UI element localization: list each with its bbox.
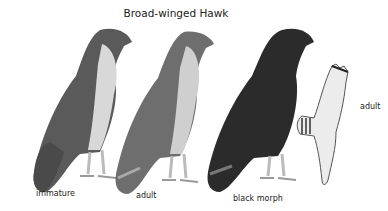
- field-guide-plate: Broad-winged Hawk immature adult black m…: [0, 0, 388, 211]
- plate-title: Broad-winged Hawk: [0, 7, 352, 19]
- label-immature: immature: [36, 189, 75, 198]
- label-adult-flight: adult: [360, 102, 380, 111]
- label-adult-perched: adult: [136, 191, 156, 200]
- adult-flight-hawk-illustration: [292, 62, 362, 192]
- label-black-morph: black morph: [233, 194, 283, 203]
